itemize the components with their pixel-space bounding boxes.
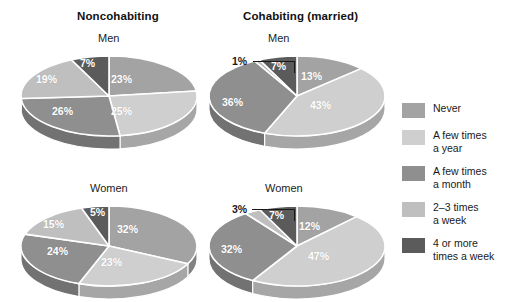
legend-swatch-4-or-more-times-a-week — [402, 238, 425, 253]
slice-label-co-women-few-year: 47% — [308, 250, 329, 262]
legend-label-2-3-times-a-week: 2–3 times a week — [433, 201, 479, 226]
legend-item-few-times-a-year: A few times a year — [402, 129, 510, 154]
group-label-noncohabiting-men: Men — [98, 32, 119, 44]
pie-chart-noncohabiting-men — [14, 48, 204, 148]
slice-label-co-women-never: 12% — [299, 220, 320, 232]
group-label-cohabiting-women: Women — [265, 182, 303, 194]
legend-item-never: Never — [402, 102, 510, 118]
slice-label-co-women-few-month: 32% — [221, 243, 242, 255]
legend-swatch-few-times-a-year — [402, 130, 425, 145]
legend-label-never: Never — [433, 102, 461, 115]
group-label-noncohabiting-women: Women — [90, 182, 128, 194]
column-title-cohabiting: Cohabiting (married) — [243, 10, 358, 22]
slice-label-nc-women-4-or-more: 5% — [90, 206, 105, 218]
slice-label-nc-women-few-year: 23% — [101, 256, 122, 268]
slice-label-nc-women-2-3-week: 15% — [43, 218, 64, 230]
legend: Never A few times a year A few times a m… — [402, 102, 510, 273]
slice-label-co-men-4-or-more: 7% — [271, 60, 286, 72]
legend-swatch-never — [402, 103, 425, 118]
legend-item-2-3-times-a-week: 2–3 times a week — [402, 201, 510, 226]
pie-chart-noncohabiting-women — [14, 198, 204, 298]
slice-label-nc-men-few-year: 25% — [111, 105, 132, 117]
legend-label-few-times-a-year: A few times a year — [433, 129, 487, 154]
slice-label-co-women-4-or-more: 7% — [269, 209, 284, 221]
callout-leader-line-co-women-v — [294, 209, 295, 221]
column-title-noncohabiting: Noncohabiting — [77, 10, 159, 22]
slice-label-nc-men-never: 23% — [111, 73, 132, 85]
legend-item-4-or-more-times-a-week: 4 or more times a week — [402, 237, 510, 262]
pie-svg — [14, 48, 204, 148]
pie-svg — [14, 198, 204, 298]
slice-label-nc-men-4-or-more: 7% — [80, 57, 95, 69]
slice-label-nc-women-few-month: 24% — [47, 245, 68, 257]
slice-label-co-men-2-3-week: 1% — [232, 55, 247, 67]
slice-label-co-women-2-3-week: 3% — [232, 203, 247, 215]
slice-label-nc-men-few-month: 26% — [52, 105, 73, 117]
group-label-cohabiting-men: Men — [268, 32, 289, 44]
slice-label-nc-women-never: 32% — [117, 223, 138, 235]
slice-label-co-men-never: 13% — [301, 70, 322, 82]
slice-label-co-men-few-month: 36% — [222, 96, 243, 108]
slice-label-nc-men-2-3-week: 19% — [36, 73, 57, 85]
legend-swatch-few-times-a-month — [402, 166, 425, 181]
legend-label-few-times-a-month: A few times a month — [433, 165, 487, 190]
legend-label-4-or-more-times-a-week: 4 or more times a week — [433, 237, 494, 262]
callout-leader-line-co-men-v — [294, 61, 295, 73]
legend-item-few-times-a-month: A few times a month — [402, 165, 510, 190]
legend-swatch-2-3-times-a-week — [402, 202, 425, 217]
chart-figure: Noncohabiting Cohabiting (married) Men M… — [0, 0, 511, 302]
slice-label-co-men-few-year: 43% — [310, 99, 331, 111]
